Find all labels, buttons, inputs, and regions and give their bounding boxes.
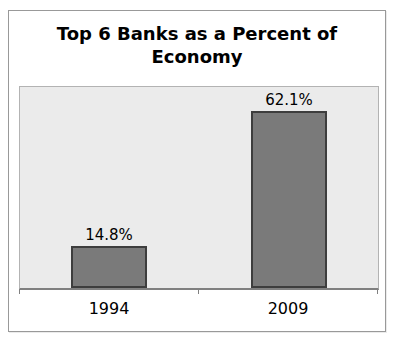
- bar-group-2009: 62.1%: [251, 91, 327, 288]
- x-axis-label-2009: 2009: [198, 299, 378, 318]
- bar-1994: [71, 246, 147, 288]
- x-axis-labels: 1994 2009: [19, 299, 377, 321]
- chart-title-text: Top 6 Banks as a Percent of Economy: [37, 22, 357, 68]
- chart-title: Top 6 Banks as a Percent of Economy: [9, 22, 385, 68]
- x-axis-tick-left: [19, 289, 20, 294]
- bar-value-label-1994: 14.8%: [85, 226, 133, 244]
- x-axis-tick-right: [377, 289, 378, 294]
- x-axis-tick-middle: [198, 289, 199, 294]
- chart-frame: Top 6 Banks as a Percent of Economy 14.8…: [8, 10, 386, 332]
- plot-area: 14.8% 62.1%: [19, 86, 379, 290]
- bar-2009: [251, 111, 327, 288]
- bar-group-1994: 14.8%: [71, 226, 147, 288]
- x-axis-label-1994: 1994: [19, 299, 199, 318]
- bar-value-label-2009: 62.1%: [265, 91, 313, 109]
- screenshot-root: Top 6 Banks as a Percent of Economy 14.8…: [0, 0, 393, 341]
